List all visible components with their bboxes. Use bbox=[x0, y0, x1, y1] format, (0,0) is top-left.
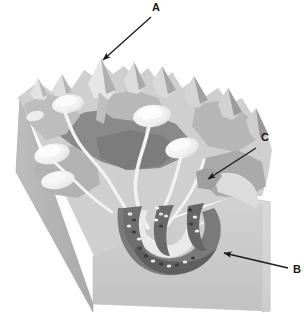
boulder bbox=[200, 222, 204, 225]
figure-canvas: A C B bbox=[0, 0, 306, 314]
boulder bbox=[195, 229, 200, 232]
boulder bbox=[164, 215, 168, 218]
boulder bbox=[154, 218, 159, 221]
boulder bbox=[155, 206, 160, 209]
boulder bbox=[189, 223, 193, 226]
block-diagram bbox=[0, 0, 306, 314]
boulder bbox=[138, 247, 142, 250]
boulder bbox=[151, 259, 156, 262]
callout-label-c: C bbox=[261, 132, 269, 143]
boulder bbox=[128, 212, 133, 215]
boulder bbox=[159, 212, 163, 215]
boulder bbox=[167, 264, 172, 267]
boulder bbox=[183, 260, 188, 263]
boulder bbox=[191, 257, 195, 260]
boulder bbox=[159, 225, 163, 228]
boulder bbox=[144, 254, 149, 257]
boulder bbox=[127, 224, 132, 227]
boulder bbox=[137, 237, 142, 240]
boulder bbox=[175, 264, 179, 267]
boulder bbox=[193, 215, 198, 218]
boulder bbox=[159, 262, 163, 265]
callout-label-b: B bbox=[293, 264, 301, 275]
boulder bbox=[188, 208, 193, 211]
boulder bbox=[132, 231, 136, 234]
peak-second bbox=[52, 74, 72, 97]
callout-arrow-A bbox=[103, 17, 151, 60]
callout-label-a: A bbox=[152, 2, 160, 13]
boulder bbox=[132, 218, 136, 221]
